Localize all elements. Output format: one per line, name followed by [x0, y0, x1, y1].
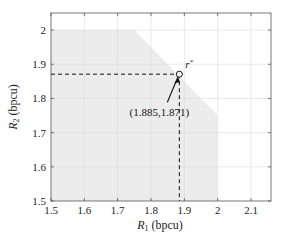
- point-coordinates-label: (1.885,1.871): [130, 106, 190, 119]
- y-tick-label: 1.9: [32, 58, 46, 70]
- x-tick-label: 2: [215, 204, 221, 216]
- x-tick-label: 1.8: [144, 204, 158, 216]
- x-tick-label: 1.6: [77, 204, 91, 216]
- y-tick-label: 1.7: [32, 127, 46, 139]
- y-tick-label: 1.5: [32, 195, 46, 207]
- x-axis-label: R1 (bpcu): [136, 218, 183, 233]
- x-tick-label: 1.7: [111, 204, 125, 216]
- y-tick-label: 1.6: [32, 161, 46, 173]
- y-tick-label: 1.8: [32, 92, 46, 104]
- y-tick-label: 2: [41, 24, 47, 36]
- y-axis-label: R2 (bpcu): [6, 84, 21, 131]
- x-tick-label: 2.1: [244, 204, 258, 216]
- point-label: r*: [185, 58, 193, 70]
- optimal-point-marker: [176, 71, 182, 77]
- rate-region-chart: 1.51.61.71.81.922.11.51.61.71.81.92 r*(1…: [0, 0, 285, 242]
- x-tick-label: 1.9: [177, 204, 191, 216]
- point-label-star: *: [190, 58, 194, 66]
- x-tick-label: 1.5: [44, 204, 58, 216]
- point-circle-icon: [176, 71, 182, 77]
